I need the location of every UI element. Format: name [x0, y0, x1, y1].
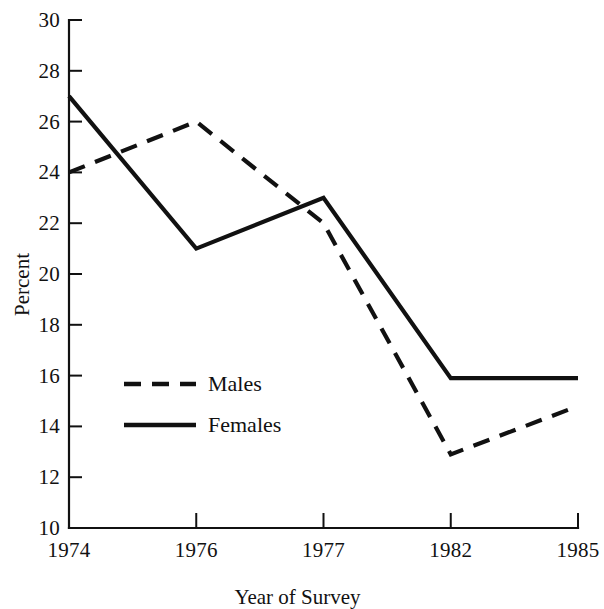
x-tick-label: 1974: [24, 540, 114, 561]
x-tick-label: 1985: [533, 540, 604, 561]
x-axis-title: Year of Survey: [0, 587, 595, 608]
y-tick-label: 12: [14, 467, 60, 488]
y-tick-label: 26: [14, 112, 60, 133]
y-tick-label: 16: [14, 366, 60, 387]
y-tick-label: 22: [14, 213, 60, 234]
axis-lines: [69, 20, 578, 528]
y-axis-title: Percent: [12, 253, 33, 316]
x-axis-ticks: [196, 513, 451, 528]
data-series-group: [69, 96, 578, 454]
x-tick-label: 1977: [279, 540, 369, 561]
series-line-males: [69, 122, 578, 455]
legend-swatches: [124, 384, 196, 425]
y-tick-label: 28: [14, 61, 60, 82]
y-tick-label: 30: [14, 10, 60, 31]
y-tick-label: 10: [14, 518, 60, 539]
legend-label-females: Females: [208, 414, 281, 436]
x-tick-label: 1982: [406, 540, 496, 561]
y-tick-label: 24: [14, 162, 60, 183]
x-tick-label: 1976: [151, 540, 241, 561]
y-tick-label: 14: [14, 416, 60, 437]
series-line-females: [69, 96, 578, 378]
y-tick-label: 18: [14, 315, 60, 336]
legend-label-males: Males: [208, 373, 262, 395]
